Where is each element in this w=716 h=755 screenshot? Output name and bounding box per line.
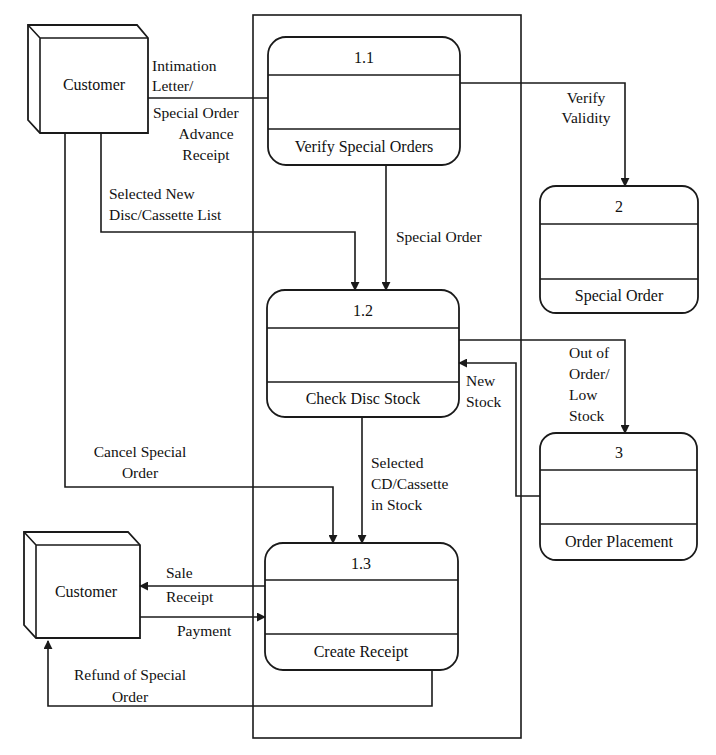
flow-1-1-to-1-2: Special Order: [386, 165, 482, 290]
process-number: 1.2: [353, 302, 373, 319]
svg-text:Receipt: Receipt: [166, 588, 214, 605]
svg-text:CD/Cassette: CD/Cassette: [371, 475, 449, 492]
process-number: 3: [615, 444, 623, 461]
svg-text:Special Order: Special Order: [153, 104, 239, 121]
svg-text:Order: Order: [112, 688, 149, 705]
svg-text:Disc/Cassette List: Disc/Cassette List: [109, 206, 222, 223]
svg-text:Order: Order: [122, 464, 159, 481]
process-name: Verify Special Orders: [295, 138, 434, 156]
entity-label: Customer: [63, 76, 126, 93]
svg-text:Sale: Sale: [166, 564, 193, 581]
process-1-2-check-disc-stock[interactable]: 1.2 Check Disc Stock: [267, 290, 459, 417]
external-entity-customer-bottom[interactable]: Customer: [24, 532, 140, 638]
process-1-3-create-receipt[interactable]: 1.3 Create Receipt: [265, 543, 458, 670]
process-number: 2: [615, 198, 623, 215]
process-1-1-verify-special-orders[interactable]: 1.1 Verify Special Orders: [268, 37, 460, 165]
svg-text:Letter/: Letter/: [152, 77, 194, 94]
svg-text:Stock: Stock: [569, 407, 605, 424]
svg-text:Refund of Special: Refund of Special: [74, 666, 186, 683]
svg-text:Cancel Special: Cancel Special: [94, 443, 187, 460]
svg-text:Intimation: Intimation: [152, 57, 217, 74]
svg-text:Selected: Selected: [371, 454, 424, 471]
process-name: Check Disc Stock: [306, 390, 421, 407]
process-3-order-placement[interactable]: 3 Order Placement: [540, 433, 697, 560]
process-number: 1.3: [351, 555, 371, 572]
data-flow-diagram: Customer Customer 1.1 Verify Special Ord…: [0, 0, 716, 755]
flow-1-1-to-2: Verify Validity: [460, 83, 625, 186]
process-name: Order Placement: [565, 533, 674, 550]
svg-text:Low: Low: [569, 386, 598, 403]
flow-1-3-to-customer-sale-receipt: Sale Receipt: [140, 564, 265, 605]
svg-text:Special Order: Special Order: [396, 228, 482, 245]
process-2-special-order[interactable]: 2 Special Order: [540, 186, 698, 313]
flow-1-2-to-1-3: Selected CD/Cassette in Stock: [362, 417, 449, 543]
process-number: 1.1: [354, 49, 374, 66]
flow-3-to-1-2: New Stock: [459, 363, 540, 496]
svg-text:Verify: Verify: [567, 89, 606, 106]
external-entity-customer-top[interactable]: Customer: [28, 25, 148, 133]
svg-text:Stock: Stock: [466, 393, 502, 410]
flow-customer-to-1-3-payment: Payment: [140, 617, 265, 639]
svg-text:Receipt: Receipt: [182, 146, 230, 163]
entity-label: Customer: [55, 583, 118, 600]
svg-text:Payment: Payment: [177, 622, 232, 639]
svg-text:Validity: Validity: [561, 109, 610, 126]
svg-text:in Stock: in Stock: [371, 496, 422, 513]
svg-text:Order/: Order/: [569, 365, 610, 382]
svg-text:Selected New: Selected New: [109, 185, 195, 202]
process-name: Create Receipt: [314, 643, 409, 661]
svg-text:Out of: Out of: [569, 344, 610, 361]
svg-text:New: New: [466, 372, 496, 389]
svg-text:Advance: Advance: [178, 125, 233, 142]
flow-customer-to-1-1: Intimation Letter/ Special Order Advance…: [148, 57, 268, 163]
process-name: Special Order: [575, 287, 664, 305]
